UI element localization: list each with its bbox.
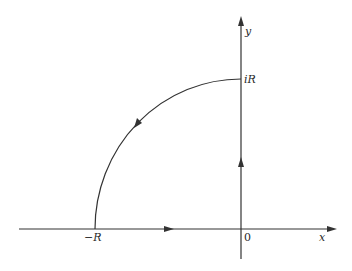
x-axis-arrowhead-icon (327, 226, 337, 232)
imag-axis-direction-arrow-icon (238, 157, 244, 167)
quarter-circle-arc (95, 79, 241, 229)
y-axis-arrowhead-icon (238, 16, 244, 26)
neg-R-label: −R (84, 231, 102, 244)
real-axis-direction-arrow-icon (164, 226, 174, 232)
x-axis-label: x (319, 231, 326, 244)
origin-label: 0 (244, 231, 251, 244)
contour-diagram: y x 0 −R iR (0, 0, 352, 271)
iR-label: iR (244, 73, 256, 86)
y-axis-label: y (244, 25, 252, 38)
